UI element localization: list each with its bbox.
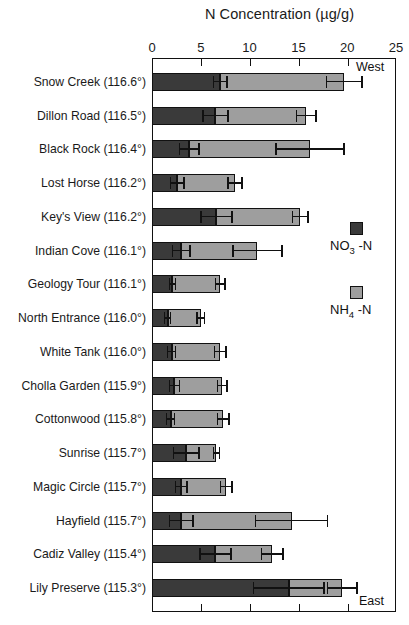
bar-row bbox=[0, 545, 409, 563]
bar-segment-nh4 bbox=[215, 107, 306, 125]
bar-row bbox=[0, 208, 409, 226]
legend-no3-tail: -N bbox=[355, 238, 372, 253]
legend-nh4-main: NH bbox=[330, 302, 349, 317]
legend-no3-main: NO bbox=[330, 238, 350, 253]
chart-title: N Concentration (µg/g) bbox=[150, 6, 409, 22]
x-tick-mark bbox=[299, 59, 300, 66]
x-tick-label: 10 bbox=[235, 40, 265, 55]
legend-label-nh4: NH4 -N bbox=[330, 302, 371, 320]
x-tick-mark bbox=[201, 604, 202, 611]
bar-row bbox=[0, 140, 409, 158]
light-square-swatch bbox=[350, 286, 363, 299]
x-tick-label: 5 bbox=[186, 40, 216, 55]
x-tick-mark bbox=[299, 604, 300, 611]
bar-row bbox=[0, 410, 409, 428]
x-tick-label: 0 bbox=[137, 40, 167, 55]
x-tick-mark bbox=[348, 604, 349, 611]
x-tick-mark bbox=[250, 59, 251, 66]
bar-segment-nh4 bbox=[177, 174, 235, 192]
legend-label-no3: NO3 -N bbox=[330, 238, 372, 256]
bar-segment-nh4 bbox=[171, 410, 224, 428]
bar-row bbox=[0, 73, 409, 91]
dark-square-swatch bbox=[350, 222, 363, 235]
bar-segment-nh4 bbox=[172, 275, 220, 293]
bar-segment-no3 bbox=[152, 73, 220, 91]
bar-row bbox=[0, 343, 409, 361]
bar-row bbox=[0, 377, 409, 395]
bar-segment-nh4 bbox=[174, 377, 222, 395]
bar-row bbox=[0, 478, 409, 496]
bar-row bbox=[0, 512, 409, 530]
x-tick-label: 20 bbox=[332, 40, 362, 55]
annotation-west: West bbox=[356, 60, 384, 74]
x-tick-label: 15 bbox=[283, 40, 313, 55]
x-tick-mark bbox=[348, 59, 349, 66]
bar-row bbox=[0, 579, 409, 597]
bar-row bbox=[0, 107, 409, 125]
x-tick-mark bbox=[201, 59, 202, 66]
bar-row bbox=[0, 444, 409, 462]
x-tick-label: 25 bbox=[381, 40, 409, 55]
legend-nh4-tail: -N bbox=[354, 302, 371, 317]
bar-row bbox=[0, 275, 409, 293]
x-tick-mark bbox=[250, 604, 251, 611]
chart-root: N Concentration (µg/g) 0510152025 Snow C… bbox=[0, 0, 409, 625]
annotation-east: East bbox=[359, 594, 384, 608]
bar-row bbox=[0, 174, 409, 192]
